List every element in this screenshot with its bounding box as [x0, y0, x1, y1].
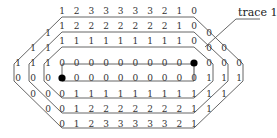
- grid-cell: 1: [88, 36, 94, 46]
- side-cell: 1: [236, 73, 242, 83]
- grid-cell: 2: [147, 21, 153, 31]
- grid-cell: 0: [103, 73, 109, 83]
- grid-cell: 0: [103, 58, 109, 68]
- side-cell: 1: [221, 73, 227, 83]
- side-cell: 0: [30, 73, 36, 83]
- side-cell: 1: [206, 104, 212, 114]
- side-cell: 1: [45, 58, 51, 68]
- grid-cell: 0: [162, 73, 168, 83]
- side-cell: 0: [45, 104, 51, 114]
- grid-cell: 3: [132, 6, 138, 16]
- grid-cell: 2: [88, 21, 94, 31]
- side-cell: 0: [45, 73, 51, 83]
- grid-cell: 3: [88, 6, 94, 16]
- grid-cell: 0: [191, 21, 197, 31]
- grid-cell: 1: [191, 89, 197, 99]
- grid-cell: 2: [74, 21, 80, 31]
- grid-cell: 1: [176, 21, 182, 31]
- side-cell: 0: [206, 58, 212, 68]
- grid-cell: 0: [88, 73, 94, 83]
- grid-cell: 1: [147, 36, 153, 46]
- grid-cell: 0: [191, 73, 197, 83]
- grid-cell: 0: [59, 119, 65, 129]
- target-dot: [58, 74, 65, 81]
- grid-cell: 1: [74, 119, 80, 129]
- grid-cell: 1: [74, 89, 80, 99]
- trace-path: [62, 64, 194, 81]
- trace-label: trace 1: [238, 6, 277, 19]
- side-cell: 1: [30, 58, 36, 68]
- grid-cell: 3: [147, 6, 153, 16]
- grid-cell: 2: [132, 104, 138, 114]
- grid-cell: 0: [132, 58, 138, 68]
- grid-cell: 0: [59, 104, 65, 114]
- grid-cell: 2: [118, 104, 124, 114]
- side-cell: 0: [236, 58, 242, 68]
- grid-cell: 0: [118, 58, 124, 68]
- grid-cell: 2: [176, 119, 182, 129]
- grid-cell: 2: [103, 21, 109, 31]
- grid-cell: 3: [103, 119, 109, 129]
- grid-cell: 0: [191, 6, 197, 16]
- grid-cell: 1: [147, 89, 153, 99]
- side-cell: 1: [221, 89, 227, 99]
- grid-cell: 1: [59, 21, 65, 31]
- grid-cell: 3: [147, 119, 153, 129]
- grid-cell: 0: [147, 58, 153, 68]
- grid-cell: 2: [147, 104, 153, 114]
- grid-cell: 1: [132, 89, 138, 99]
- grid-cell: 2: [176, 104, 182, 114]
- grid-cell: 0: [176, 58, 182, 68]
- grid-cell: 2: [88, 104, 94, 114]
- grid-cell: 1: [176, 6, 182, 16]
- grid-cell: 2: [162, 6, 168, 16]
- grid-cell: 0: [132, 73, 138, 83]
- grid-cell: 0: [176, 73, 182, 83]
- grid-cell: 1: [59, 36, 65, 46]
- side-cell: 1: [206, 73, 212, 83]
- side-cell: 1: [45, 28, 51, 38]
- grid-cell: 1: [118, 89, 124, 99]
- maze-routing-diagram: 1233333210122222221011111111100000000000…: [0, 0, 277, 138]
- side-cell: 0: [15, 73, 21, 83]
- left-side-cells: 111111000000: [15, 28, 51, 114]
- grid-cell: 2: [103, 104, 109, 114]
- grid-cell: 1: [88, 89, 94, 99]
- side-cell: 0: [221, 58, 227, 68]
- grid-cell: 3: [118, 119, 124, 129]
- grid-cell: 1: [132, 36, 138, 46]
- grid-cell: 1: [118, 36, 124, 46]
- side-cell: 0: [221, 43, 227, 53]
- side-cell: 1: [15, 58, 21, 68]
- grid-cell: 0: [59, 58, 65, 68]
- grid-cell: 2: [118, 21, 124, 31]
- grid-cell: 3: [132, 119, 138, 129]
- side-cell: 1: [206, 89, 212, 99]
- grid-cell: 2: [162, 21, 168, 31]
- main-grid: 1233333210122222221011111111100000000000…: [59, 6, 197, 129]
- grid-cell: 1: [162, 89, 168, 99]
- grid-cell: 1: [191, 119, 197, 129]
- grid-cell: 2: [132, 21, 138, 31]
- grid-cell: 0: [74, 58, 80, 68]
- source-dot: [190, 59, 197, 66]
- grid-cell: 0: [147, 73, 153, 83]
- grid-cell: 0: [88, 58, 94, 68]
- grid-cell: 0: [59, 89, 65, 99]
- side-cell: 0: [206, 43, 212, 53]
- grid-cell: 1: [103, 36, 109, 46]
- side-cell: 1: [45, 43, 51, 53]
- side-cell: 1: [30, 43, 36, 53]
- grid-cell: 1: [176, 89, 182, 99]
- grid-cell: 3: [118, 6, 124, 16]
- grid-cell: 0: [118, 73, 124, 83]
- grid-cell: 2: [74, 6, 80, 16]
- trace-leader: [205, 19, 260, 47]
- grid-cell: 0: [74, 73, 80, 83]
- side-cell: 0: [45, 89, 51, 99]
- grid-cell: 1: [191, 104, 197, 114]
- grid-cell: 1: [74, 104, 80, 114]
- grid-cell: 1: [103, 89, 109, 99]
- grid-cell: 3: [162, 119, 168, 129]
- grid-cell: 2: [162, 104, 168, 114]
